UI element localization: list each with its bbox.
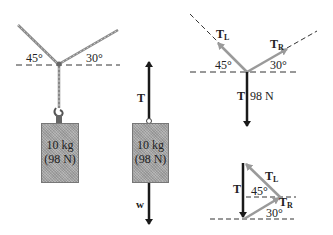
mass-block: 10 kg (98 N) xyxy=(41,123,79,183)
angle-left-label: 45° xyxy=(215,59,232,71)
knot-fbd xyxy=(190,14,317,126)
angle-left-label: 45° xyxy=(26,52,43,64)
angle-lower-label: 30° xyxy=(266,207,283,219)
mass-block-fbd: 10 kg (98 N) xyxy=(132,123,169,183)
angle-right-label: 30° xyxy=(270,59,287,71)
physical-setup xyxy=(16,25,120,123)
gravity-label: w xyxy=(136,199,144,210)
angle-upper-label: 45° xyxy=(251,185,268,197)
weight-label: (98 N) xyxy=(44,153,76,167)
angle-right-label: 30° xyxy=(86,52,103,64)
tension-left-label: TL xyxy=(265,170,278,184)
knot-icon xyxy=(57,62,62,67)
weight-label: (98 N) xyxy=(135,153,167,167)
tension-down-value: 98 N xyxy=(250,90,274,102)
tension-label: T xyxy=(137,92,145,104)
tension-right-label: TR xyxy=(270,38,284,52)
tension-down-label: T xyxy=(237,90,245,102)
tension-left-label: TL xyxy=(216,28,229,42)
mass-label: 10 kg xyxy=(47,139,74,153)
mass-label: 10 kg xyxy=(137,139,164,153)
tension-vertical-label: T xyxy=(233,183,241,195)
physics-diagram: 45° 30° 10 kg (98 N) T 10 kg (98 N) w TL… xyxy=(0,0,333,235)
